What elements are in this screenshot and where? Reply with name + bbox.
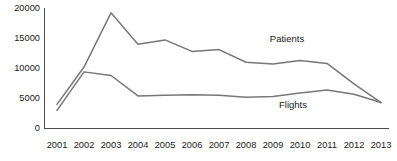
- y-tick-label: 0: [35, 123, 40, 133]
- x-tick-label: 2001: [47, 140, 68, 150]
- x-tick-label: 2012: [344, 140, 365, 150]
- x-tick-label: 2009: [263, 140, 284, 150]
- x-tick-label: 2002: [74, 140, 95, 150]
- series-annotation-patients: Patients: [270, 33, 305, 44]
- series-line-flights: [57, 72, 381, 111]
- x-tick-label: 2011: [317, 140, 337, 150]
- x-tick-label: 2008: [236, 140, 257, 150]
- x-tick-label: 2005: [155, 140, 176, 150]
- x-tick-label: 2003: [101, 140, 122, 150]
- series-annotation-flights: Flights: [279, 99, 307, 110]
- y-tick-label: 20000: [14, 3, 40, 13]
- y-tick-label: 15000: [14, 33, 40, 43]
- chart-plot-area: 20000 15000 10000 5000 0 2001 2002 2003 …: [0, 0, 397, 161]
- x-tick-label: 2007: [209, 140, 230, 150]
- y-tick-label: 10000: [14, 63, 40, 73]
- y-tick-label: 5000: [19, 93, 40, 103]
- x-tick-label: 2013: [371, 140, 392, 150]
- line-chart-figure: 20000 15000 10000 5000 0 2001 2002 2003 …: [0, 0, 397, 161]
- x-tick-label: 2004: [128, 140, 149, 150]
- x-tick-label: 2006: [182, 140, 203, 150]
- x-tick-label: 2010: [290, 140, 311, 150]
